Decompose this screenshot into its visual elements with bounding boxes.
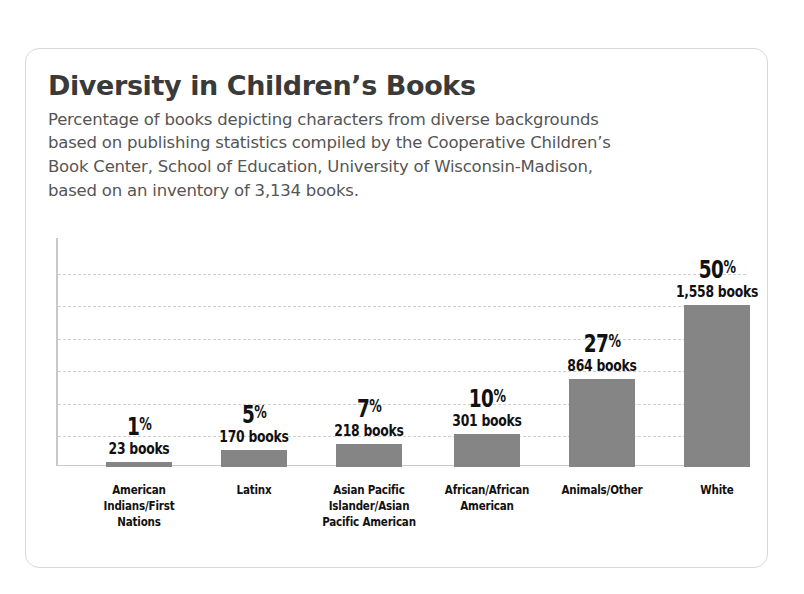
x-axis-tick-label: American Indians/First Nations <box>87 482 190 530</box>
bar-column[interactable]: 1%23 books <box>106 462 172 467</box>
bar[interactable] <box>336 444 402 467</box>
bar-column[interactable]: 27%864 books <box>569 379 635 466</box>
bar-column[interactable]: 5%170 books <box>221 450 287 466</box>
bar-value-labels: 5%170 books <box>214 402 295 447</box>
gridline <box>58 306 746 307</box>
bar-percent-label: 7% <box>336 396 402 421</box>
bar-count-label: 864 books <box>567 357 636 376</box>
x-axis-tick-label: African/African American <box>435 482 538 514</box>
page-title: Diversity in Children’s Books <box>48 71 748 101</box>
chart-plot-area: 1%23 books5%170 books7%218 books10%301 b… <box>56 238 746 468</box>
percent-symbol: % <box>254 403 266 423</box>
bar-percent-label: 50% <box>678 257 756 282</box>
x-axis-tick-label: Asian Pacific Islander/Asian Pacific Ame… <box>317 482 420 530</box>
bar-value-labels: 10%301 books <box>447 386 528 431</box>
bar-percent-label: 5% <box>221 402 287 427</box>
bar-column[interactable]: 10%301 books <box>454 434 520 466</box>
x-axis-tick-label: White <box>665 482 768 498</box>
y-axis-line <box>56 238 58 466</box>
chart-header: Diversity in Children’s Books Percentage… <box>48 71 748 203</box>
bar[interactable] <box>106 462 172 467</box>
bar-column[interactable]: 7%218 books <box>336 444 402 467</box>
bar-percent-label: 1% <box>110 414 168 439</box>
percent-symbol: % <box>139 414 151 434</box>
bar[interactable] <box>454 434 520 466</box>
bar-value-labels: 50%1,558 books <box>669 257 764 302</box>
bar-value-labels: 27%864 books <box>562 331 643 376</box>
gridline <box>58 371 746 372</box>
bar[interactable] <box>221 450 287 466</box>
bar[interactable] <box>569 379 635 466</box>
bar-count-label: 1,558 books <box>676 283 758 302</box>
bar[interactable] <box>684 305 750 467</box>
percent-symbol: % <box>609 331 621 351</box>
bar-value-labels: 7%218 books <box>329 396 410 441</box>
bar-count-label: 301 books <box>452 412 521 431</box>
x-axis-tick-label: Animals/Other <box>550 482 653 498</box>
bar-count-label: 170 books <box>219 428 288 447</box>
gridline <box>58 339 746 340</box>
x-axis-tick-label: Latinx <box>202 482 305 498</box>
bar-column[interactable]: 50%1,558 books <box>684 305 750 467</box>
gridline <box>58 274 746 275</box>
chart-subtitle: Percentage of books depicting characters… <box>48 108 748 203</box>
chart-card: Diversity in Children’s Books Percentage… <box>25 48 768 568</box>
percent-symbol: % <box>494 386 506 406</box>
bar-count-label: 218 books <box>334 422 403 441</box>
bar-percent-label: 10% <box>454 386 520 411</box>
bar-count-label: 23 books <box>109 440 170 459</box>
bar-value-labels: 1%23 books <box>104 414 175 459</box>
bar-percent-label: 27% <box>569 331 635 356</box>
percent-symbol: % <box>369 396 381 416</box>
percent-symbol: % <box>724 257 736 277</box>
